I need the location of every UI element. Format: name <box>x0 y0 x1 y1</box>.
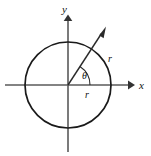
y-axis-arrow-icon <box>64 15 73 22</box>
figure-canvas: y x θ r r <box>0 0 151 156</box>
radius-label-lower: r <box>85 89 89 100</box>
circle-angle-figure: y x θ r r <box>0 0 151 156</box>
x-axis-arrow-icon <box>128 81 135 90</box>
angle-theta-label: θ <box>82 70 87 81</box>
y-axis-label: y <box>61 3 67 15</box>
radius-label-upper: r <box>108 53 112 64</box>
x-axis-label: x <box>138 79 144 91</box>
